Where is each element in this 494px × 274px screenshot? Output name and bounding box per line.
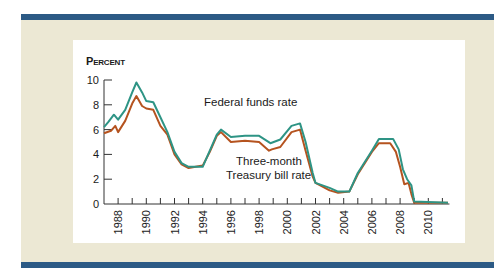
y-tick-label: 4	[93, 148, 99, 160]
x-tick-label: 2006	[366, 210, 378, 234]
y-tick-label: 2	[93, 173, 99, 185]
y-tick-label: 0	[93, 198, 99, 210]
x-tick-label: 2008	[394, 210, 406, 234]
x-tick-label: 1994	[197, 210, 209, 234]
x-tick-label: 2010	[422, 210, 434, 234]
x-tick-label: 1998	[253, 210, 265, 234]
x-tick-label: 1996	[225, 210, 237, 234]
three-month-treasury-bill-rate-line	[104, 96, 448, 203]
line-chart: 0246810198819901992199419961998200020022…	[0, 0, 494, 274]
y-tick-label: 6	[93, 124, 99, 136]
x-tick-label: 1992	[169, 210, 181, 234]
y-tick-label: 10	[87, 74, 99, 86]
x-tick-label: 2002	[310, 210, 322, 234]
annotation-federal-funds: Federal funds rate	[204, 96, 297, 108]
annotation-tbill-line1: Three-month	[236, 155, 302, 167]
x-tick-label: 1988	[112, 210, 124, 234]
x-tick-label: 2000	[281, 210, 293, 234]
x-tick-label: 1990	[140, 210, 152, 234]
annotation-tbill-line2: Treasury bill rate	[226, 169, 311, 181]
y-tick-label: 8	[93, 99, 99, 111]
x-tick-label: 2004	[338, 210, 350, 234]
